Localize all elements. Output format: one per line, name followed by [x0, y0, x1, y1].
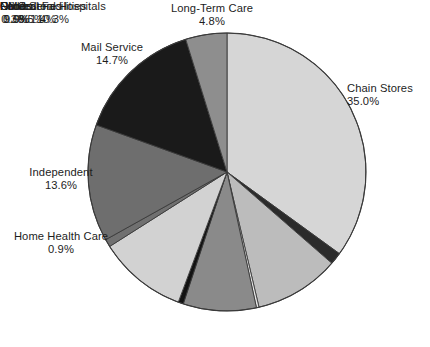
pie-label-name: Federal Facilities: [0, 0, 86, 13]
pie-label-independent: Independent 13.6%: [2, 166, 120, 192]
pie-label-name: Long-Term Care: [146, 2, 278, 15]
pie-label-value: 14.7%: [50, 54, 174, 67]
pie-label-value: 1.4%: [0, 13, 86, 26]
pie-slice-group: [88, 33, 366, 311]
pie-label-mail-service: Mail Service 14.7%: [50, 41, 174, 67]
pie-chart-figure: Long-Term Care 4.8% Mail Service 14.7% C…: [0, 0, 430, 347]
pie-label-name: Mail Service: [50, 41, 174, 54]
pie-label-name: Home Health Care: [0, 230, 124, 243]
pie-label-federal-facilities: Federal Facilities 1.4%: [0, 0, 86, 26]
pie-label-value: 35.0%: [347, 95, 430, 108]
pie-label-chain-stores: Chain Stores 35.0%: [347, 82, 430, 108]
pie-label-long-term-care: Long-Term Care 4.8%: [146, 2, 278, 28]
pie-label-home-health-care: Home Health Care 0.9%: [0, 230, 124, 256]
pie-label-name: Independent: [2, 166, 120, 179]
pie-label-name: Chain Stores: [347, 82, 430, 95]
pie-label-value: 0.9%: [0, 243, 124, 256]
pie-label-value: 13.6%: [2, 179, 120, 192]
pie-label-value: 4.8%: [146, 15, 278, 28]
